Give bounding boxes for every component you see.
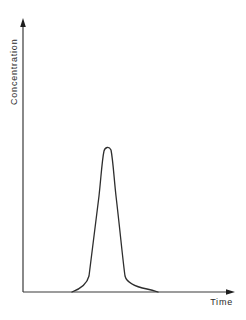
x-axis-arrow-icon: [226, 289, 235, 295]
y-axis-label: Concentration: [9, 39, 19, 105]
x-axis-label: Time: [210, 297, 233, 307]
y-axis-arrow-icon: [20, 18, 26, 27]
peak-curve: [72, 147, 158, 292]
chart-canvas: Concentration Time: [0, 0, 246, 320]
